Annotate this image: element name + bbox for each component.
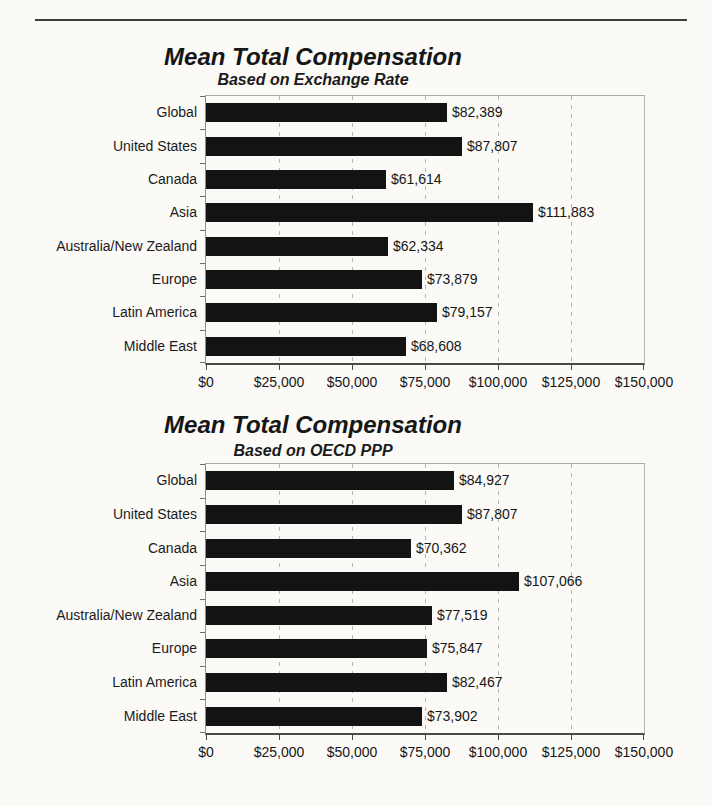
x-axis-label: $150,000 — [600, 744, 688, 760]
bar-united-states — [206, 137, 462, 156]
value-label: $73,902 — [427, 707, 478, 726]
y-axis-tick — [200, 96, 205, 97]
bar-middle-east — [206, 707, 422, 726]
x-axis-tick — [352, 735, 353, 740]
chart-subtitle: Based on OECD PPP — [0, 442, 626, 460]
value-label: $87,807 — [467, 505, 518, 524]
y-axis-tick — [200, 196, 205, 197]
x-axis-tick — [425, 365, 426, 370]
category-label: Latin America — [112, 673, 197, 692]
bar-canada — [206, 539, 411, 558]
value-label: $111,883 — [538, 203, 594, 222]
category-label: Europe — [152, 639, 197, 658]
category-label: Asia — [170, 572, 197, 591]
y-axis-tick — [200, 666, 205, 667]
y-axis-tick — [200, 296, 205, 297]
y-axis-tick — [200, 163, 205, 164]
value-label: $79,157 — [442, 303, 493, 322]
value-label: $70,362 — [416, 539, 467, 558]
plot-area-oecd-ppp: Global$84,927United States$87,807Canada$… — [205, 463, 645, 735]
y-axis-tick — [200, 362, 205, 363]
category-label: United States — [113, 505, 197, 524]
category-label: Middle East — [124, 707, 197, 726]
bar-australia-new-zealand — [206, 606, 432, 625]
y-axis-tick — [200, 498, 205, 499]
x-axis-tick — [206, 735, 207, 740]
x-axis-tick — [279, 365, 280, 370]
category-label: Latin America — [112, 303, 197, 322]
bar-latin-america — [206, 673, 447, 692]
category-label: Australia/New Zealand — [56, 237, 197, 256]
value-label: $82,467 — [452, 673, 503, 692]
y-axis-tick — [200, 263, 205, 264]
y-axis-tick — [200, 599, 205, 600]
x-axis-tick — [206, 365, 207, 370]
plot-area-exchange-rate: Global$82,389United States$87,807Canada$… — [205, 95, 645, 365]
x-axis-label: $150,000 — [600, 374, 688, 390]
bar-global — [206, 103, 447, 122]
x-axis-tick — [352, 365, 353, 370]
bar-middle-east — [206, 337, 406, 356]
bar-europe — [206, 639, 427, 658]
category-label: Asia — [170, 203, 197, 222]
chart-title: Mean Total Compensation — [0, 45, 626, 69]
category-label: Global — [157, 103, 197, 122]
x-axis-tick — [643, 365, 644, 370]
x-axis-tick — [498, 365, 499, 370]
bar-asia — [206, 572, 519, 591]
y-axis-tick — [200, 230, 205, 231]
x-axis-tick — [425, 735, 426, 740]
bar-asia — [206, 203, 533, 222]
value-label: $87,807 — [467, 137, 518, 156]
document-page: Mean Total Compensation Based on Exchang… — [0, 0, 712, 806]
bar-australia-new-zealand — [206, 237, 388, 256]
value-label: $73,879 — [427, 270, 478, 289]
y-axis-tick — [200, 129, 205, 130]
value-label: $77,519 — [437, 606, 488, 625]
y-axis-tick — [200, 699, 205, 700]
horizontal-rule — [35, 19, 687, 21]
category-label: Middle East — [124, 337, 197, 356]
category-label: Global — [157, 471, 197, 490]
x-axis-tick — [498, 735, 499, 740]
bar-united-states — [206, 505, 462, 524]
y-axis-tick — [200, 732, 205, 733]
value-label: $107,066 — [524, 572, 582, 591]
bar-canada — [206, 170, 386, 189]
y-axis-tick — [200, 531, 205, 532]
value-label: $84,927 — [459, 471, 510, 490]
value-label: $75,847 — [432, 639, 483, 658]
gridline — [571, 464, 572, 733]
bar-global — [206, 471, 454, 490]
value-label: $82,389 — [452, 103, 503, 122]
category-label: United States — [113, 137, 197, 156]
chart-subtitle: Based on Exchange Rate — [0, 71, 626, 89]
bar-europe — [206, 270, 422, 289]
y-axis-tick — [200, 330, 205, 331]
category-label: Australia/New Zealand — [56, 606, 197, 625]
chart-title: Mean Total Compensation — [0, 413, 626, 437]
x-axis-tick — [279, 735, 280, 740]
category-label: Canada — [148, 539, 197, 558]
x-axis-tick — [571, 365, 572, 370]
value-label: $61,614 — [391, 170, 442, 189]
x-axis-tick — [643, 735, 644, 740]
category-label: Canada — [148, 170, 197, 189]
y-axis-tick — [200, 565, 205, 566]
gridline — [571, 96, 572, 363]
value-label: $68,608 — [411, 337, 462, 356]
category-label: Europe — [152, 270, 197, 289]
y-axis-tick — [200, 464, 205, 465]
bar-latin-america — [206, 303, 437, 322]
x-axis-tick — [571, 735, 572, 740]
y-axis-tick — [200, 632, 205, 633]
value-label: $62,334 — [393, 237, 444, 256]
